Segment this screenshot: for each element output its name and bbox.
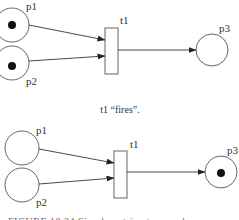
firing-caption: t1 “fires”. [100, 104, 139, 115]
place-label-p1: p1 [36, 124, 47, 136]
net-before: p1 p2 t1 p3 [0, 0, 231, 87]
figure-caption: FIGURE 10.24 Simple petri net example [8, 216, 190, 220]
arc-p1-t1 [39, 149, 114, 163]
place-label-p3: p3 [219, 22, 231, 34]
arc-p1-t1 [29, 25, 105, 40]
transition-label-t1: t1 [130, 138, 139, 150]
net-after: p1 p2 t1 p3 [5, 124, 239, 208]
place-label-p3: p3 [227, 144, 239, 156]
transition-t1 [105, 28, 118, 74]
transition-label-t1: t1 [120, 14, 129, 26]
token-icon [8, 21, 16, 29]
place-p3 [196, 34, 228, 66]
token-icon [8, 62, 16, 70]
token-icon [217, 169, 225, 177]
arc-p2-t1 [39, 178, 114, 184]
place-p2 [5, 168, 39, 202]
place-label-p2: p2 [26, 75, 37, 87]
petri-net-figure: p1 p2 t1 p3 t1 “fires”. p1 p2 t1 p3 FIGU… [0, 0, 239, 220]
transition-t1 [114, 151, 127, 198]
place-label-p1: p1 [26, 0, 37, 12]
place-p1 [5, 131, 39, 165]
arc-p2-t1 [29, 56, 105, 61]
place-label-p2: p2 [36, 196, 47, 208]
